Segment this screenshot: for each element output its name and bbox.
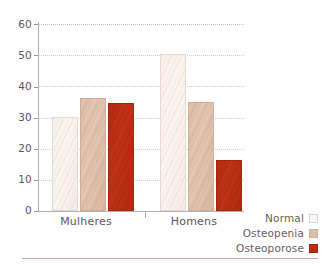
legend-label-osteoporose: Osteoporose	[236, 243, 304, 254]
bar-homens-normal	[160, 54, 186, 211]
legend-swatch-normal-icon	[309, 214, 318, 223]
y-axis-tick-label-40: 40	[6, 81, 32, 92]
gridline-40	[38, 86, 244, 87]
gridline-50	[38, 55, 244, 56]
bar-mulheres-osteoporose	[108, 103, 134, 211]
legend-item-osteoporose: Osteoporose	[236, 242, 318, 255]
legend-label-osteopenia: Osteopenia	[243, 228, 304, 239]
y-axis-tick-label-60: 60	[6, 19, 32, 30]
y-axis-tick-label-0: 0	[6, 205, 32, 216]
bar-chart: 60 50 40 30 20 10 0 Mulheres Homens Norm…	[0, 0, 324, 267]
legend-label-normal: Normal	[265, 213, 304, 224]
y-axis-tick-label-10: 10	[6, 174, 32, 185]
legend-item-normal: Normal	[265, 212, 318, 225]
legend-swatch-osteopenia-icon	[309, 229, 318, 238]
gridline-60	[38, 24, 244, 25]
x-axis-label-mulheres: Mulheres	[26, 216, 146, 228]
y-axis-tick-label-20: 20	[6, 143, 32, 154]
y-axis-tick-label-50: 50	[6, 50, 32, 61]
y-axis-tick-label-30: 30	[6, 112, 32, 123]
bar-homens-osteopenia	[188, 102, 214, 211]
legend-swatch-osteoporose-icon	[309, 244, 318, 253]
bar-mulheres-normal	[52, 117, 78, 211]
legend-item-osteopenia: Osteopenia	[243, 227, 318, 240]
legend: Normal Osteopenia Osteoporose	[236, 212, 318, 255]
bar-homens-osteoporose	[216, 160, 242, 211]
bottom-divider	[22, 258, 318, 259]
plot-area	[38, 20, 244, 211]
bar-mulheres-osteopenia	[80, 98, 106, 211]
x-axis-line	[38, 211, 244, 212]
